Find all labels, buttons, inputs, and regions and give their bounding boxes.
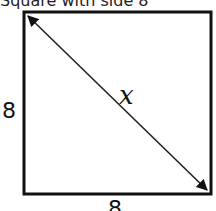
diagonal-arrow	[28, 16, 207, 190]
bottom-side-label: 8	[108, 196, 122, 211]
square-diagram	[0, 0, 216, 211]
diagonal-label: x	[119, 80, 134, 110]
left-side-label: 8	[2, 98, 16, 123]
